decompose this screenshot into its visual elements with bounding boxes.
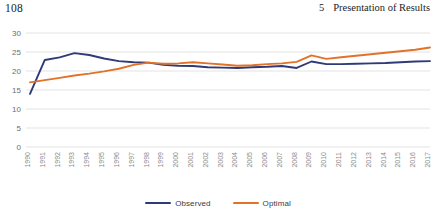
legend-label-observed: Observed (175, 199, 210, 208)
x-tick-label: 2017 (424, 152, 431, 168)
x-tick-label: 1992 (54, 152, 61, 168)
legend-item-optimal: Optimal (233, 199, 291, 208)
x-axis-tick-labels: 1990199119921993199419951996199719981999… (24, 152, 431, 168)
x-tick-label: 2011 (335, 152, 342, 167)
y-tick-label: 15 (12, 86, 21, 95)
y-tick-label: 25 (12, 48, 21, 57)
legend-swatch-optimal (233, 202, 259, 205)
x-tick-label: 2003 (217, 152, 224, 168)
x-tick-label: 2008 (291, 152, 298, 168)
x-tick-label: 2000 (172, 152, 179, 168)
x-tick-label: 2012 (350, 152, 357, 168)
x-tick-label: 2006 (261, 152, 268, 168)
line-chart-figure: 051015202530 199019911992199319941995199… (0, 24, 436, 212)
x-tick-label: 1995 (98, 152, 105, 168)
x-tick-label: 2014 (380, 152, 387, 168)
x-tick-label: 2007 (276, 152, 283, 168)
gridlines (26, 33, 430, 147)
x-tick-label: 2004 (231, 152, 238, 168)
page-number: 108 (5, 2, 23, 14)
chart-plot-area: 051015202530 199019911992199319941995199… (0, 24, 436, 189)
x-tick-label: 1991 (39, 152, 46, 168)
legend-label-optimal: Optimal (263, 199, 291, 208)
x-tick-label: 1990 (24, 152, 31, 168)
series-line-optimal (30, 47, 430, 82)
x-tick-label: 2013 (365, 152, 372, 168)
x-tick-label: 1997 (128, 152, 135, 168)
x-tick-label: 1994 (83, 152, 90, 168)
x-tick-label: 2005 (246, 152, 253, 168)
chapter-number: 5 (319, 2, 324, 13)
x-tick-label: 2001 (187, 152, 194, 168)
y-tick-label: 0 (17, 143, 22, 152)
chart-legend: Observed Optimal (0, 196, 436, 210)
x-tick-label: 2010 (320, 152, 327, 168)
legend-swatch-observed (145, 202, 171, 205)
x-tick-label: 2002 (202, 152, 209, 168)
y-tick-label: 30 (12, 29, 21, 38)
x-tick-label: 1998 (143, 152, 150, 168)
chart-canvas: 051015202530 199019911992199319941995199… (0, 24, 436, 189)
x-tick-label: 2016 (409, 152, 416, 168)
x-tick-label: 1999 (157, 152, 164, 168)
chapter-title: Presentation of Results (333, 2, 430, 13)
x-tick-label: 2009 (305, 152, 312, 168)
y-tick-label: 20 (12, 67, 21, 76)
y-tick-label: 10 (12, 105, 21, 114)
figure-page: 108 5Presentation of Results 05101520253… (0, 0, 436, 212)
x-tick-label: 1993 (68, 152, 75, 168)
y-tick-label: 5 (17, 124, 22, 133)
x-tick-label: 1996 (113, 152, 120, 168)
chapter-heading: 5Presentation of Results (319, 2, 430, 13)
y-axis-tick-labels: 051015202530 (12, 29, 21, 152)
running-header: 108 5Presentation of Results (0, 0, 436, 22)
x-tick-label: 2015 (394, 152, 401, 168)
legend-item-observed: Observed (145, 199, 210, 208)
